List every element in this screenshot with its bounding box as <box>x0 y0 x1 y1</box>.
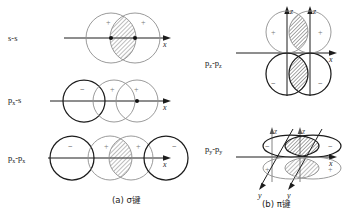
sign-pxpx-2: + <box>104 142 109 151</box>
nucleus-pxs <box>135 99 139 103</box>
nucleus-ss-left <box>109 36 113 40</box>
sign-pxs-1: − <box>80 85 85 94</box>
row-py-py-label: py-py <box>205 144 222 155</box>
x-axis-label-pxpx: x <box>162 160 167 169</box>
caption-a: (a) σ键 <box>112 195 141 205</box>
sign-pxs-2: + <box>110 85 115 94</box>
row-px-px-label: px-px <box>8 153 25 164</box>
row-s-s-label: s-s <box>8 33 17 43</box>
sign-pypy-top-right: − <box>328 142 333 151</box>
sign-pxs-3: + <box>134 85 139 94</box>
sign-pypy-bottom-left: + <box>265 165 270 174</box>
sign-pzpz-top-left: + <box>271 28 276 37</box>
sign-pxpx-4: − <box>172 142 177 151</box>
row-py-py: py-py x z z y y <box>205 127 341 200</box>
row-px-px: px-px x − + + − <box>8 136 188 180</box>
x-axis-label-ss: x <box>162 40 167 49</box>
sign-pypy-bottom-right: + <box>328 165 333 174</box>
sign-pxpx-3: + <box>136 142 141 151</box>
sign-pzpz-bottom-right: − <box>318 79 323 88</box>
caption-b: (b) π键 <box>262 199 291 209</box>
pi-bond-panel: pz-pz x z z + + <box>205 6 341 209</box>
z-axis-label-py-right: z <box>301 127 306 136</box>
x-axis-label-pzpz: x <box>328 55 333 64</box>
sign-ss-right: + <box>141 18 146 27</box>
row-s-s: s-s x + + <box>8 13 171 63</box>
orbital-overlap-figure: s-s x + + px-s x <box>0 0 348 216</box>
x-axis-label-pxs: x <box>162 103 167 112</box>
row-pz-pz: pz-pz x z z + + <box>205 6 337 96</box>
z-axis-arrow-left <box>284 6 289 14</box>
nucleus-ss-right <box>133 36 137 40</box>
sign-pxpx-1: − <box>68 142 73 151</box>
y-axis-arrow-left <box>259 183 266 190</box>
z-axis-label-py-left: z <box>273 127 278 136</box>
sign-pypy-top-left: − <box>265 142 270 151</box>
sign-pzpz-top-right: + <box>318 28 323 37</box>
sigma-bond-panel: s-s x + + px-s x <box>8 13 188 205</box>
z-axis-arrow-right <box>307 6 312 14</box>
sign-ss-left: + <box>106 18 111 27</box>
row-px-s: px-s x − + + <box>8 80 171 122</box>
y-axis-arrow-right <box>288 183 295 190</box>
sign-pzpz-bottom-left: − <box>271 79 276 88</box>
row-pz-pz-label: pz-pz <box>205 58 222 69</box>
row-px-s-label: px-s <box>8 95 21 106</box>
